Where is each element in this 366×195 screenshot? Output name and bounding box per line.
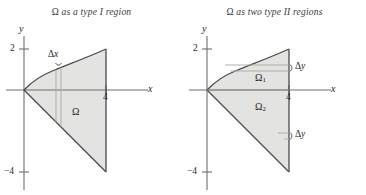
y-tick-label-minus-4: −4 xyxy=(4,167,14,177)
plot-area-type-ii: x y 2 −4 4 Ω1 Ω2 Δy Δy xyxy=(183,18,366,195)
panel-type-ii: Ω as two type II regions xyxy=(183,0,366,195)
panel-title-text: as a type I region xyxy=(59,7,131,17)
delta-y-upper-variable: y xyxy=(301,61,305,71)
panel-title-omega-symbol: Ω xyxy=(52,7,59,17)
y-axis-label-2: y xyxy=(202,24,206,34)
y-tick-label-2: 2 xyxy=(10,44,15,54)
panel-title-omega-symbol-2: Ω xyxy=(226,7,233,17)
x-tick-label-4: 4 xyxy=(103,93,108,103)
panel-title-type-ii: Ω as two type II regions xyxy=(183,7,366,17)
delta-x-label: Δx xyxy=(48,50,58,60)
region-fill-omega-combined xyxy=(207,49,289,172)
plot-svg-type-ii xyxy=(183,18,366,195)
region-label-omega-2-sub: 2 xyxy=(262,105,266,113)
region-label-omega-2: Ω2 xyxy=(255,102,266,113)
x-axis-label-2: x xyxy=(331,84,335,94)
delta-y-lower-variable: y xyxy=(301,129,305,139)
x-tick-label-4-panel-2: 4 xyxy=(286,93,291,103)
delta-y-lower-brace xyxy=(290,133,292,140)
y-tick-label-minus-4-panel-2: −4 xyxy=(187,167,197,177)
delta-y-lower-label: Δy xyxy=(295,130,305,140)
delta-y-upper-label: Δy xyxy=(295,62,305,72)
panel-title-type-i: Ω as a type I region xyxy=(0,7,183,17)
region-label-omega-1-sub: 1 xyxy=(262,76,266,84)
delta-x-brace xyxy=(56,63,62,65)
region-label-omega-1: Ω1 xyxy=(255,73,266,84)
region-fill-omega xyxy=(24,49,106,172)
delta-x-variable: x xyxy=(54,49,58,59)
region-label-omega: Ω xyxy=(72,107,79,117)
y-tick-label-2-panel-2: 2 xyxy=(193,44,198,54)
x-axis-label: x xyxy=(148,84,152,94)
y-axis-label: y xyxy=(19,24,23,34)
plot-svg-type-i xyxy=(0,18,183,195)
panel-type-i: Ω as a type I region xyxy=(0,0,183,195)
delta-y-upper-brace xyxy=(290,65,292,72)
figure-container: Ω as a type I region xyxy=(0,0,366,195)
plot-area-type-i: x y 2 −4 4 Δx Ω xyxy=(0,18,183,195)
panel-title-text-2: as two type II regions xyxy=(234,7,323,17)
